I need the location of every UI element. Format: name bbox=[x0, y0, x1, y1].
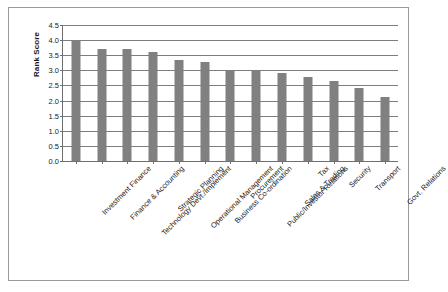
bar bbox=[71, 40, 80, 161]
y-axis-tick-label: 2.0 bbox=[49, 96, 59, 105]
x-axis-tick-label: Security bbox=[346, 164, 372, 190]
x-axis-tick-label: Govt. Relations bbox=[405, 164, 448, 207]
y-axis-tick-label: 2.5 bbox=[49, 81, 59, 90]
bar-slot bbox=[218, 25, 244, 161]
y-axis-tick-label: 0.5 bbox=[49, 141, 59, 150]
bars-group bbox=[63, 25, 398, 161]
bar bbox=[149, 52, 158, 161]
bar bbox=[200, 62, 209, 161]
y-axis-tick-label: 0.0 bbox=[49, 157, 59, 166]
y-axis-tick-label: 4.5 bbox=[49, 21, 59, 30]
bar bbox=[123, 49, 132, 161]
plot-area: 0.00.51.01.52.02.53.03.54.04.5 bbox=[62, 25, 398, 162]
y-axis-tick-label: 4.0 bbox=[49, 36, 59, 45]
x-axis-labels-group: Investment FinanceFinance & AccountingTe… bbox=[62, 164, 397, 274]
bar-slot bbox=[372, 25, 398, 161]
bar-slot bbox=[243, 25, 269, 161]
chart-plot-wrapper: Rank Score 0.00.51.01.52.02.53.03.54.04.… bbox=[9, 8, 410, 282]
y-axis-tick-mark bbox=[60, 161, 63, 162]
bar bbox=[381, 97, 390, 161]
bar bbox=[355, 88, 364, 161]
bar bbox=[278, 73, 287, 161]
bar-slot bbox=[89, 25, 115, 161]
y-axis-tick-label: 1.0 bbox=[49, 126, 59, 135]
bar-slot bbox=[115, 25, 141, 161]
bar-slot bbox=[346, 25, 372, 161]
y-axis-tick-label: 1.5 bbox=[49, 111, 59, 120]
y-axis-title: Rank Score bbox=[32, 15, 41, 95]
y-axis-tick-label: 3.0 bbox=[49, 66, 59, 75]
bar bbox=[303, 77, 312, 161]
chart-figure: Rank Score 0.00.51.01.52.02.53.03.54.04.… bbox=[8, 7, 409, 281]
bar-slot bbox=[63, 25, 89, 161]
bar bbox=[329, 81, 338, 161]
x-axis-tick-label: Transport bbox=[374, 164, 403, 193]
bar bbox=[226, 71, 235, 161]
bar bbox=[97, 49, 106, 161]
bar-slot bbox=[321, 25, 347, 161]
bar-slot bbox=[269, 25, 295, 161]
bar-slot bbox=[192, 25, 218, 161]
bar bbox=[252, 71, 261, 161]
bar-slot bbox=[140, 25, 166, 161]
bar-slot bbox=[295, 25, 321, 161]
bar bbox=[174, 60, 183, 161]
bar-slot bbox=[166, 25, 192, 161]
y-axis-tick-label: 3.5 bbox=[49, 51, 59, 60]
